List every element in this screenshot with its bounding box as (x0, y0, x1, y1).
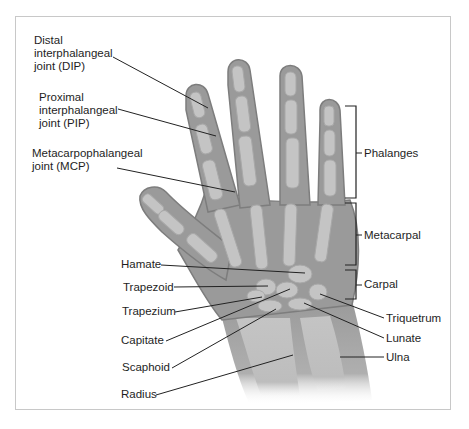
label-ulna: Ulna (386, 351, 410, 364)
label-pip: Proximal interphalangeal joint (PIP) (39, 91, 118, 130)
phalanges-bracket (345, 106, 362, 198)
label-phalanges: Phalanges (364, 147, 418, 160)
label-capitate: Capitate (121, 334, 164, 347)
label-hamate: Hamate (121, 258, 161, 271)
label-lunate: Lunate (386, 332, 421, 345)
label-scaphoid: Scaphoid (122, 361, 170, 374)
dip-leader (113, 57, 208, 108)
brackets (345, 106, 362, 299)
label-carpal: Carpal (364, 278, 398, 291)
label-radius: Radius (121, 388, 157, 401)
label-trapezoid: Trapezoid (123, 281, 174, 294)
label-metacarpal: Metacarpal (364, 229, 421, 242)
label-triquetrum: Triquetrum (386, 312, 441, 325)
label-trapezium: Trapezium (122, 305, 176, 318)
label-mcp: Metacarpophalangeal joint (MCP) (32, 147, 143, 173)
label-dip: Distal interphalangeal joint (DIP) (34, 34, 113, 73)
